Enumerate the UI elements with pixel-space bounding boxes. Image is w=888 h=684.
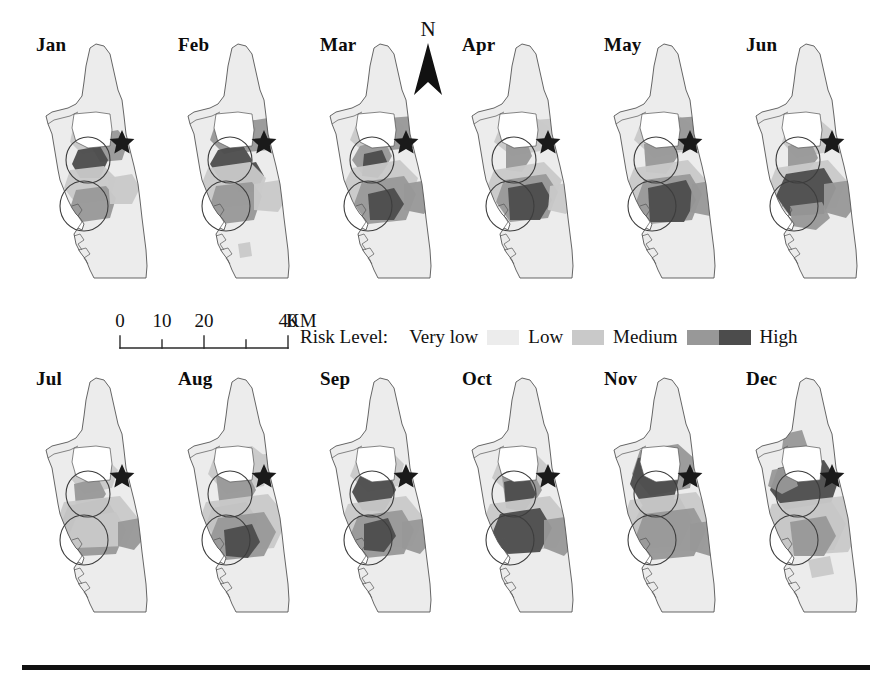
map-panel-jan: Jan bbox=[34, 38, 166, 300]
scale-tick-10: 10 bbox=[153, 310, 172, 332]
map-panel-sep: Sep bbox=[318, 372, 450, 634]
inland-water-body bbox=[782, 112, 822, 148]
map-panel-oct: Oct bbox=[460, 372, 592, 634]
map-panel-dec: Dec bbox=[744, 372, 876, 634]
panel-map-graphic bbox=[744, 38, 876, 300]
risk-level-legend: Risk Level: Very low Low Medium High bbox=[300, 325, 807, 349]
panel-month-label: Jul bbox=[36, 368, 62, 390]
inland-water-body bbox=[640, 112, 680, 148]
panel-month-label: Apr bbox=[462, 34, 495, 56]
panel-month-label: Mar bbox=[320, 34, 356, 56]
inland-water-body bbox=[640, 446, 680, 482]
north-arrow-label: N bbox=[406, 18, 450, 40]
inland-water-body bbox=[356, 446, 396, 482]
map-panel-nov: Nov bbox=[602, 372, 734, 634]
map-panel-aug: Aug bbox=[176, 372, 308, 634]
panel-map-graphic bbox=[176, 38, 308, 300]
inland-water-body bbox=[356, 112, 396, 148]
panel-map-graphic bbox=[34, 372, 166, 634]
panel-map-graphic bbox=[744, 372, 876, 634]
scale-tick-20: 20 bbox=[195, 310, 214, 332]
risk-patch-medium bbox=[824, 180, 860, 218]
risk-patch-medium bbox=[404, 180, 436, 214]
inland-water-body bbox=[498, 446, 538, 482]
panel-month-label: Oct bbox=[462, 368, 492, 390]
north-arrow-icon bbox=[411, 41, 445, 97]
inland-water-body bbox=[214, 446, 254, 482]
panel-month-label: May bbox=[604, 34, 642, 56]
inland-water-body bbox=[72, 446, 112, 482]
map-panel-may: May bbox=[602, 38, 734, 300]
inland-water-body bbox=[782, 446, 822, 482]
scale-tick-0: 0 bbox=[115, 310, 125, 332]
panel-map-graphic bbox=[176, 372, 308, 634]
inland-water-body bbox=[72, 112, 112, 148]
map-panel-feb: Feb bbox=[176, 38, 308, 300]
legend-swatch-high bbox=[719, 330, 751, 345]
inland-water-body bbox=[498, 112, 538, 148]
panel-month-label: Sep bbox=[320, 368, 350, 390]
panel-map-graphic bbox=[460, 372, 592, 634]
inland-water-body bbox=[214, 112, 254, 148]
legend-label-low: Low bbox=[519, 326, 572, 348]
legend-entry-very-low: Very low bbox=[400, 326, 519, 348]
risk-patch-medium bbox=[690, 180, 724, 216]
legend-label-medium: Medium bbox=[604, 326, 686, 348]
panel-month-label: Dec bbox=[746, 368, 777, 390]
risk-patch-low bbox=[238, 242, 252, 258]
scale-bar-tick-labels: 0 10 20 40 KM bbox=[110, 310, 325, 334]
bottom-divider-rule bbox=[22, 665, 870, 670]
scale-bar: 0 10 20 40 KM bbox=[110, 310, 325, 358]
panel-map-graphic bbox=[602, 38, 734, 300]
legend-title: Risk Level: bbox=[300, 326, 388, 348]
monthly-risk-map-figure: JanFebMarAprMayJunJulAugSepOctNovDec N 0… bbox=[0, 0, 888, 684]
risk-patch-medium bbox=[118, 518, 146, 550]
risk-patch-medium bbox=[402, 518, 434, 554]
legend-swatch-medium bbox=[687, 330, 719, 345]
risk-patch-medium bbox=[544, 516, 580, 556]
legend-swatch-low bbox=[572, 330, 604, 345]
panel-map-graphic bbox=[318, 372, 450, 634]
panel-month-label: Aug bbox=[178, 368, 212, 390]
legend-label-high: High bbox=[751, 326, 807, 348]
panel-month-label: Jun bbox=[746, 34, 777, 56]
panel-map-graphic bbox=[602, 372, 734, 634]
scale-bar-graphic bbox=[110, 334, 325, 356]
legend-swatch-very-low bbox=[487, 330, 519, 345]
panel-month-label: Feb bbox=[178, 34, 209, 56]
panel-month-label: Nov bbox=[604, 368, 637, 390]
map-panel-apr: Apr bbox=[460, 38, 592, 300]
legend-entry-low: Low bbox=[519, 326, 604, 348]
map-panel-jun: Jun bbox=[744, 38, 876, 300]
map-panel-jul: Jul bbox=[34, 372, 166, 634]
panel-map-graphic bbox=[460, 38, 592, 300]
legend-entry-medium: Medium bbox=[604, 326, 718, 348]
legend-label-very-low: Very low bbox=[400, 326, 487, 348]
north-arrow: N bbox=[406, 18, 450, 100]
panel-month-label: Jan bbox=[36, 34, 66, 56]
panel-map-graphic bbox=[34, 38, 166, 300]
legend-entry-high: High bbox=[719, 326, 807, 348]
risk-patch-low bbox=[548, 182, 578, 214]
risk-patch-low bbox=[808, 556, 834, 578]
